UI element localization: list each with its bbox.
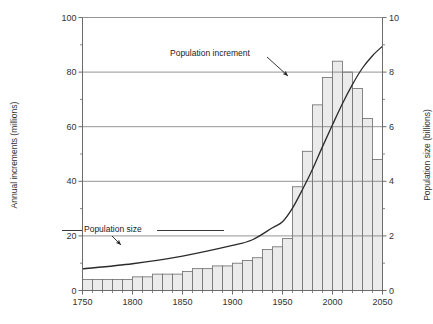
- x-tick-label: 1800: [122, 297, 142, 307]
- bar: [323, 78, 333, 291]
- bar: [203, 269, 213, 291]
- bar: [123, 280, 133, 291]
- bar: [253, 258, 263, 291]
- bar: [93, 280, 103, 291]
- x-tick-label: 1850: [172, 297, 192, 307]
- bar: [263, 250, 273, 291]
- bar: [153, 274, 163, 290]
- bar: [143, 277, 153, 291]
- annotation-population-increment: Population increment: [170, 48, 250, 58]
- left-tick-label: 100: [61, 13, 76, 23]
- bar-series-population-increment: [83, 61, 383, 290]
- bar: [293, 187, 303, 291]
- bar: [163, 274, 173, 290]
- right-tick-label: 2: [389, 231, 394, 241]
- left-tick-label: 20: [66, 231, 76, 241]
- increment-annotation-arrow: [267, 57, 288, 76]
- size-annotation-arrow: [112, 236, 121, 245]
- left-tick-label: 60: [66, 122, 76, 132]
- population-chart-figure: 0204060801000246810175018001850190019502…: [0, 0, 433, 324]
- bar: [373, 159, 383, 290]
- left-axis-title: Annual increments (millions): [9, 80, 19, 230]
- left-tick-label: 0: [71, 286, 76, 296]
- x-tick-label: 2050: [372, 297, 392, 307]
- bar: [313, 105, 323, 291]
- left-tick-label: 80: [66, 67, 76, 77]
- right-tick-label: 0: [389, 286, 394, 296]
- bar: [223, 266, 233, 291]
- x-tick-label: 2000: [322, 297, 342, 307]
- right-axis-title: Population size (billions): [422, 80, 432, 230]
- bar: [83, 280, 93, 291]
- bar: [103, 280, 113, 291]
- bar: [283, 239, 293, 291]
- bar: [273, 247, 283, 291]
- annotation-population-size: Population size: [84, 224, 142, 234]
- right-tick-label: 10: [389, 13, 399, 23]
- x-tick-label: 1900: [222, 297, 242, 307]
- right-tick-label: 6: [389, 122, 394, 132]
- bar: [213, 266, 223, 291]
- x-tick-label: 1950: [272, 297, 292, 307]
- bar: [243, 260, 253, 290]
- left-tick-label: 40: [66, 176, 76, 186]
- bar: [363, 119, 373, 291]
- bar: [173, 274, 183, 290]
- bar: [353, 88, 363, 290]
- bar: [183, 271, 193, 290]
- bar: [113, 280, 123, 291]
- x-tick-label: 1750: [72, 297, 92, 307]
- bar: [193, 269, 203, 291]
- bar: [133, 277, 143, 291]
- right-tick-label: 8: [389, 67, 394, 77]
- right-tick-label: 4: [389, 176, 394, 186]
- annotation-leaders: [62, 57, 288, 245]
- bar: [333, 61, 343, 290]
- bar: [233, 263, 243, 290]
